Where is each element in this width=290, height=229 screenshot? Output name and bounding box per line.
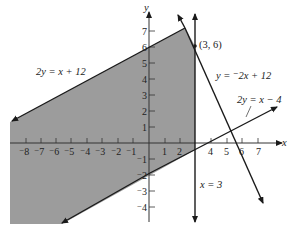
line-y-eq-neg2x-plus-12-lower xyxy=(185,28,263,203)
svg-text:⁻4: ⁻4 xyxy=(80,146,90,157)
svg-text:7: 7 xyxy=(256,146,261,157)
line-y-eq-neg2x-plus-12 xyxy=(178,15,185,28)
y-axis-label: y xyxy=(143,2,149,13)
svg-text:⁻4: ⁻4 xyxy=(137,202,147,213)
shaded-region xyxy=(10,28,195,224)
svg-text:⁻6: ⁻6 xyxy=(49,146,59,157)
point-3-6-label: (3, 6) xyxy=(199,39,222,51)
label-2y-eq-x-plus-12: 2y = x + 12 xyxy=(36,66,86,77)
svg-text:⁻2: ⁻2 xyxy=(111,146,121,157)
label-y-eq-neg2x-plus-12: y = ⁻2x + 12 xyxy=(215,70,272,81)
svg-text:7: 7 xyxy=(142,26,147,37)
label-x-eq-3: x = 3 xyxy=(199,179,222,190)
svg-text:2: 2 xyxy=(177,146,182,157)
svg-text:⁻1: ⁻1 xyxy=(126,146,136,157)
svg-text:⁻7: ⁻7 xyxy=(34,146,44,157)
svg-text:5: 5 xyxy=(224,146,229,157)
svg-text:1: 1 xyxy=(142,122,147,133)
label-leader-line xyxy=(246,106,251,117)
svg-text:3: 3 xyxy=(142,90,147,101)
svg-text:⁻3: ⁻3 xyxy=(95,146,105,157)
svg-text:⁻8: ⁻8 xyxy=(19,146,29,157)
inequality-graph: ⁻8 ⁻7 ⁻6 ⁻5 ⁻4 ⁻3 ⁻2 ⁻1 1 2 4 5 6 7 7 6 … xyxy=(0,0,290,229)
svg-text:4: 4 xyxy=(142,74,147,85)
label-2y-eq-x-minus-4: 2y = x − 4 xyxy=(237,94,282,105)
x-axis-label: x xyxy=(281,137,287,148)
svg-text:1: 1 xyxy=(162,146,167,157)
point-3-6 xyxy=(193,44,197,48)
svg-text:4: 4 xyxy=(208,146,213,157)
svg-text:⁻1: ⁻1 xyxy=(137,154,147,165)
svg-text:⁻3: ⁻3 xyxy=(137,186,147,197)
svg-text:5: 5 xyxy=(142,58,147,69)
svg-text:2: 2 xyxy=(142,106,147,117)
svg-text:⁻5: ⁻5 xyxy=(64,146,74,157)
